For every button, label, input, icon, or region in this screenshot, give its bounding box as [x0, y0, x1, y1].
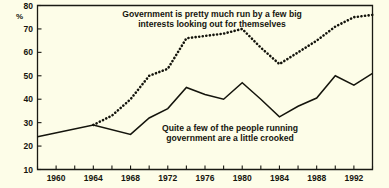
x-tick-label: 1984	[270, 173, 289, 183]
x-tick-label: 1964	[84, 173, 103, 183]
x-tick-label: 1980	[233, 173, 252, 183]
y-tick-label: 30	[24, 118, 34, 128]
y-tick-label: 40	[24, 94, 34, 104]
crooked-label: Quite a few of the people runninggovernm…	[162, 123, 298, 143]
x-tick-label: 1968	[121, 173, 140, 183]
line-chart: 1020304050607080 19601964196819721976198…	[0, 0, 389, 188]
big-interests-label: Government is pretty much run by a few b…	[122, 9, 302, 29]
x-tick-label: 1992	[344, 173, 363, 183]
x-tick-label: 1960	[47, 173, 66, 183]
x-tick-label: 1976	[196, 173, 215, 183]
percent-axis-label: %	[16, 12, 23, 21]
x-tick-label: 1972	[158, 173, 177, 183]
y-tick-label: 60	[24, 47, 34, 57]
chart-container: 1020304050607080 19601964196819721976198…	[0, 0, 389, 188]
x-axis-labels: 196019641968197219761980198419881992	[47, 173, 364, 183]
y-tick-label: 70	[24, 24, 34, 34]
y-tick-label: 20	[24, 141, 34, 151]
y-tick-label: 50	[24, 71, 34, 81]
y-tick-label: 10	[24, 165, 34, 175]
y-tick-label: 80	[24, 1, 34, 11]
x-tick-label: 1988	[307, 173, 326, 183]
